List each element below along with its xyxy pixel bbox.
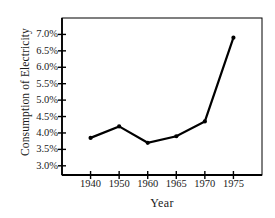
plot-area bbox=[0, 0, 275, 218]
data-point bbox=[174, 134, 178, 138]
chart-figure: Consumption of Electricity 7.0%6.5%6.0%5… bbox=[0, 0, 275, 218]
data-point bbox=[231, 36, 235, 40]
data-point bbox=[88, 136, 92, 140]
data-point bbox=[117, 124, 121, 128]
data-point bbox=[203, 119, 207, 123]
data-point bbox=[146, 141, 150, 145]
